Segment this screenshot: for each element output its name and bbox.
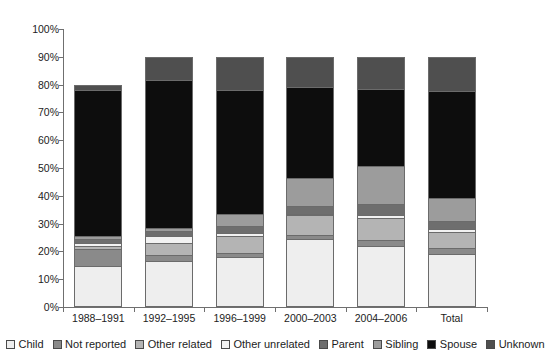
bar-segment-unknown <box>146 58 192 81</box>
bar-segment-not-reported <box>75 250 121 268</box>
y-axis-tick-mark <box>59 29 64 30</box>
y-axis-tick-mark <box>59 57 64 58</box>
bar-segment-other-unrelated <box>146 237 192 244</box>
bar-segment-child <box>75 267 121 306</box>
legend-label: Not reported <box>65 338 126 350</box>
bar-segment-unknown <box>358 58 404 90</box>
bar-stack <box>428 57 476 307</box>
bar-segment-parent <box>429 222 475 230</box>
legend-swatch-icon <box>6 340 15 349</box>
bar-segment-child <box>217 258 263 306</box>
y-axis-tick-label: 20% <box>38 245 59 257</box>
legend-label: Spouse <box>440 338 477 350</box>
y-axis-tick-label: 30% <box>38 218 59 230</box>
y-axis-tick-mark <box>59 251 64 252</box>
bar-stack <box>286 57 334 307</box>
bar-segment-unknown <box>217 58 263 91</box>
legend-item-parent[interactable]: Parent <box>319 338 373 350</box>
y-axis-tick-mark <box>59 224 64 225</box>
bar-segment-spouse <box>146 81 192 229</box>
y-axis-tick-mark <box>59 168 64 169</box>
legend-label: Sibling <box>385 338 418 350</box>
x-axis-tick-mark <box>487 307 488 312</box>
bar-segment-other-related <box>358 219 404 241</box>
bar-stack <box>74 85 122 307</box>
y-axis-tick-mark <box>59 140 64 141</box>
bar-segment-spouse <box>75 91 121 237</box>
y-axis-tick-mark <box>59 196 64 197</box>
bar-segment-child <box>358 247 404 306</box>
bar-segment-spouse <box>358 90 404 167</box>
legend-item-other-related[interactable]: Other related <box>135 338 221 350</box>
legend-item-spouse[interactable]: Spouse <box>427 338 486 350</box>
y-axis-tick-label: 90% <box>38 51 59 63</box>
bar-segment-child <box>287 240 333 306</box>
bar-segment-child <box>146 262 192 306</box>
legend-label: Other unrelated <box>233 338 309 350</box>
legend-swatch-icon <box>135 340 144 349</box>
x-axis-tick-label: Total <box>392 312 512 324</box>
bar-segment-other-related <box>287 216 333 235</box>
legend-swatch-icon <box>221 340 230 349</box>
y-axis-tick-mark <box>59 112 64 113</box>
legend-label: Other related <box>148 338 212 350</box>
bar-stack <box>216 57 264 307</box>
legend-item-sibling[interactable]: Sibling <box>373 338 428 350</box>
y-axis-tick-label: 80% <box>38 79 59 91</box>
legend-label: Unknown <box>499 338 545 350</box>
legend-item-child[interactable]: Child <box>6 338 53 350</box>
bar-segment-sibling <box>358 167 404 206</box>
legend-swatch-icon <box>373 340 382 349</box>
bar-segment-spouse <box>429 92 475 198</box>
y-axis-tick-labels: 0%10%20%30%40%50%60%70%80%90%100% <box>0 0 59 356</box>
y-axis-tick-label: 50% <box>38 162 59 174</box>
bar-stack <box>145 57 193 307</box>
bar-segment-sibling <box>217 215 263 227</box>
legend-item-unknown[interactable]: Unknown <box>486 338 549 350</box>
bar-segment-spouse <box>287 88 333 179</box>
legend-swatch-icon <box>319 340 328 349</box>
legend-swatch-icon <box>53 340 62 349</box>
y-axis-tick-label: 70% <box>38 106 59 118</box>
y-axis-tick-mark <box>59 279 64 280</box>
bar-segment-other-related <box>429 233 475 250</box>
bar-segment-unknown <box>287 58 333 88</box>
bar-segment-sibling <box>429 199 475 222</box>
y-axis-tick-mark <box>59 85 64 86</box>
bar-segment-parent <box>358 205 404 216</box>
legend-label: Child <box>19 338 44 350</box>
legend-swatch-icon <box>427 340 436 349</box>
bar-segment-sibling <box>287 179 333 207</box>
y-axis-tick-label: 100% <box>32 23 59 35</box>
bar-segment-parent <box>287 207 333 215</box>
legend-swatch-icon <box>486 340 495 349</box>
bar-segment-child <box>429 255 475 306</box>
bar-segment-unknown <box>429 58 475 92</box>
bar-segment-spouse <box>217 91 263 215</box>
y-axis-tick-label: 10% <box>38 273 59 285</box>
legend-item-not-reported[interactable]: Not reported <box>53 338 136 350</box>
bar-segment-other-related <box>146 244 192 256</box>
legend-item-other-unrelated[interactable]: Other unrelated <box>221 338 319 350</box>
bar-segment-other-related <box>217 237 263 254</box>
bar-segment-parent <box>217 227 263 234</box>
y-axis-tick-label: 60% <box>38 134 59 146</box>
bar-stack <box>357 57 405 307</box>
chart-legend: ChildNot reportedOther relatedOther unre… <box>6 336 502 352</box>
y-axis-tick-label: 40% <box>38 190 59 202</box>
legend-label: Parent <box>331 338 363 350</box>
